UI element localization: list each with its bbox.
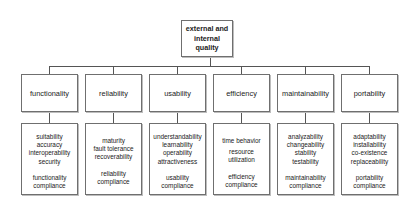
- subcharacteristic: analyzability: [287, 133, 324, 141]
- root-label-line-1: external and: [186, 24, 228, 34]
- compliance-label: compliance: [353, 182, 385, 190]
- compliance-label: compliance: [33, 182, 67, 190]
- compliance-label: usability: [161, 174, 193, 182]
- category-node-functionality: functionality: [21, 74, 78, 112]
- subcharacteristic: utilization: [222, 156, 260, 164]
- compliance-label: compliance: [161, 182, 193, 190]
- sub-connector-functionality: [49, 112, 50, 123]
- sub-connector-usability: [177, 112, 178, 123]
- compliance-label: compliance: [225, 181, 257, 189]
- subcharacteristic: adaptability: [351, 133, 388, 141]
- connector-maintainability: [305, 66, 306, 74]
- category-node-portability: portability: [341, 74, 398, 112]
- category-label: functionality: [30, 89, 69, 98]
- subcharacteristic: fault tolerance: [93, 145, 133, 153]
- subcharacteristic: changeability: [287, 141, 324, 149]
- subcharacteristics-reliability: maturity fault tolerance recoverability …: [85, 123, 142, 195]
- subcharacteristics-portability: adaptability installability co-existence…: [341, 123, 398, 195]
- subcharacteristic: operability: [153, 149, 201, 157]
- sub-connector-reliability: [113, 112, 114, 123]
- category-label: maintainability: [282, 89, 329, 98]
- subcharacteristics-functionality: suitability accuracy interoperability se…: [21, 123, 78, 195]
- subcharacteristic: testability: [287, 158, 324, 166]
- category-label: portability: [354, 89, 386, 98]
- subcharacteristic: understandability: [153, 133, 201, 141]
- subcharacteristic: recoverability: [93, 153, 133, 161]
- subcharacteristics-usability: understandability learnability operabili…: [149, 123, 206, 195]
- compliance-label: reliability: [97, 170, 129, 178]
- compliance-label: compliance: [285, 182, 326, 190]
- subcharacteristic: co-existence: [351, 149, 388, 157]
- subcharacteristic: suitability: [29, 133, 71, 141]
- category-node-usability: usability: [149, 74, 206, 112]
- root-node-external-internal-quality: external and internal quality: [181, 20, 233, 57]
- compliance-label: maintainability: [285, 174, 326, 182]
- connector-reliability: [113, 66, 114, 74]
- subcharacteristic: time behavior: [222, 137, 260, 145]
- sub-connector-maintainability: [305, 112, 306, 123]
- subcharacteristic: maturity: [93, 137, 133, 145]
- sub-connector-efficiency: [241, 112, 242, 123]
- subcharacteristic: security: [29, 158, 71, 166]
- root-label-line-2: internal: [194, 34, 220, 44]
- category-label: reliability: [99, 89, 128, 98]
- compliance-label: functionality: [33, 174, 67, 182]
- subcharacteristics-maintainability: analyzability changeability stability te…: [277, 123, 334, 195]
- subcharacteristic: replaceability: [351, 158, 388, 166]
- connector-functionality: [49, 66, 50, 74]
- compliance-label: efficiency: [225, 173, 257, 181]
- subcharacteristics-efficiency: time behavior resource utilization effic…: [213, 123, 270, 195]
- connector-usability: [177, 66, 178, 74]
- root-label-line-3: quality: [195, 43, 218, 53]
- subcharacteristic: resource: [222, 148, 260, 156]
- category-label: efficiency: [226, 89, 257, 98]
- sub-connector-portability: [369, 112, 370, 123]
- category-node-reliability: reliability: [85, 74, 142, 112]
- category-label: usability: [164, 89, 191, 98]
- connector-portability: [369, 66, 370, 74]
- subcharacteristic: attractiveness: [153, 158, 201, 166]
- compliance-label: compliance: [97, 178, 129, 186]
- category-node-maintainability: maintainability: [277, 74, 334, 112]
- subcharacteristic: learnability: [153, 141, 201, 149]
- subcharacteristic: interoperability: [29, 149, 71, 157]
- compliance-label: portability: [353, 174, 385, 182]
- horizontal-connector: [49, 66, 370, 67]
- subcharacteristic: installability: [351, 141, 388, 149]
- connector-efficiency: [241, 66, 242, 74]
- category-node-efficiency: efficiency: [213, 74, 270, 112]
- subcharacteristic: accuracy: [29, 141, 71, 149]
- subcharacteristic: stability: [287, 149, 324, 157]
